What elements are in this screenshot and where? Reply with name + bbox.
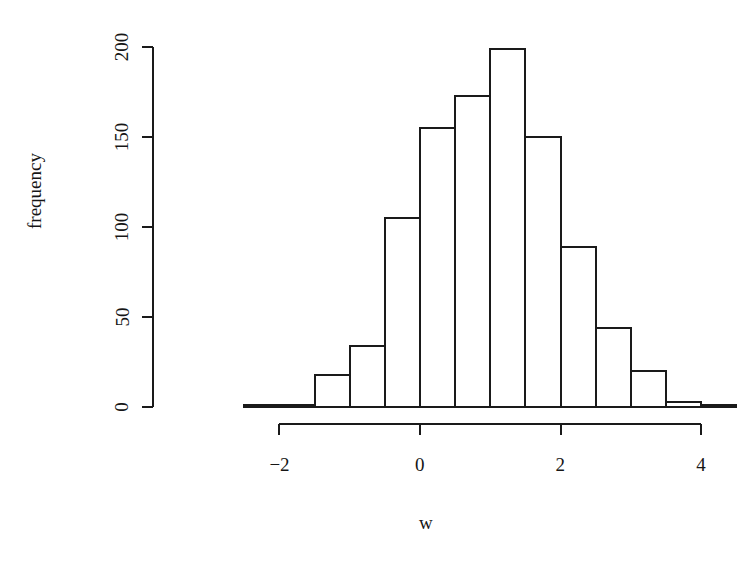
histogram-bar bbox=[561, 247, 596, 407]
x-tick-label: 0 bbox=[415, 454, 425, 476]
histogram-bar bbox=[420, 128, 455, 407]
y-tick-label: 200 bbox=[111, 33, 133, 62]
y-axis bbox=[142, 47, 153, 407]
histogram-plot: frequency w −2024050100150200 bbox=[0, 0, 743, 569]
histogram-bar bbox=[244, 405, 279, 407]
histogram-bar bbox=[490, 49, 525, 407]
x-axis bbox=[279, 424, 701, 435]
x-tick-label: −2 bbox=[269, 454, 289, 476]
histogram-bar bbox=[525, 137, 560, 407]
x-tick-label: 2 bbox=[556, 454, 566, 476]
histogram-bar bbox=[455, 96, 490, 407]
histogram-canvas bbox=[0, 0, 743, 569]
y-tick-label: 50 bbox=[111, 308, 133, 327]
histogram-bar bbox=[350, 346, 385, 407]
y-tick-label: 0 bbox=[111, 402, 133, 412]
y-tick-label: 100 bbox=[111, 213, 133, 242]
histogram-bar bbox=[666, 402, 701, 407]
histogram-bar bbox=[385, 218, 420, 407]
histogram-bar bbox=[596, 328, 631, 407]
histogram-bar bbox=[279, 405, 314, 407]
histogram-bar bbox=[631, 371, 666, 407]
y-tick-label: 150 bbox=[111, 123, 133, 152]
histogram-bar bbox=[701, 405, 736, 407]
histogram-bar bbox=[315, 375, 350, 407]
histogram-bars bbox=[244, 49, 736, 407]
x-tick-label: 4 bbox=[696, 454, 706, 476]
